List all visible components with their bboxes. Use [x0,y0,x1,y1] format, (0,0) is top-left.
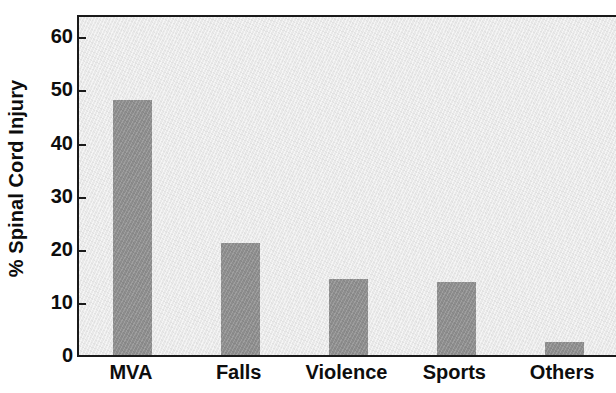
y-axis-tick-mark [79,90,86,92]
bar-falls [221,243,260,355]
bar-chart-figure: % Spinal Cord Injury 0102030405060 MVAFa… [0,0,616,393]
x-axis-tick-label: Others [530,361,594,384]
y-axis-tick-labels: 0102030405060 [33,0,73,393]
y-axis-tick-mark [79,356,86,357]
y-axis-tick-label: 0 [35,345,73,365]
x-axis-tick-label: Sports [423,361,486,384]
y-axis-tick-label: 40 [35,133,73,153]
bar-mva [113,100,152,355]
plot-area [77,15,616,357]
y-axis-tick-label: 60 [35,26,73,46]
x-axis-tick-labels: MVAFallsViolenceSportsOthers [77,361,616,393]
y-axis-tick-label: 10 [35,292,73,312]
x-axis-tick-label: MVA [109,361,152,384]
bar-violence [329,279,368,356]
y-axis-tick-mark [79,37,86,39]
y-axis-tick-label: 30 [35,186,73,206]
bar-sports [437,282,476,355]
y-axis-tick-mark [79,197,86,199]
y-axis-title-text: % Spinal Cord Injury [6,80,29,278]
y-axis-tick-mark [79,250,86,252]
x-axis-tick-label: Falls [216,361,262,384]
y-axis-tick-mark [79,303,86,305]
y-axis-tick-label: 20 [35,239,73,259]
x-axis-tick-label: Violence [306,361,388,384]
bar-others [545,342,584,355]
y-axis-tick-mark [79,144,86,146]
y-axis-title: % Spinal Cord Injury [0,0,34,357]
y-axis-tick-label: 50 [35,79,73,99]
